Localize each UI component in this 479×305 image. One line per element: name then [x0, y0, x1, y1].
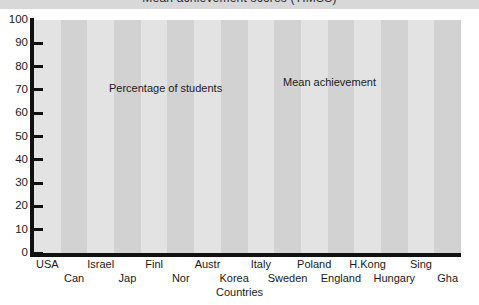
y-axis-tick-label: 50	[2, 131, 28, 142]
background-band	[274, 20, 301, 253]
x-axis-tick-label: Finl	[145, 258, 163, 270]
background-band	[167, 20, 194, 253]
x-axis-tick-label: Can	[64, 272, 84, 284]
x-axis-tick-label: Nor	[172, 272, 190, 284]
x-axis-tick-label: Sweden	[268, 272, 308, 284]
background-band	[114, 20, 141, 253]
y-axis-tick	[34, 182, 43, 185]
background-band	[354, 20, 381, 253]
y-axis-tick-label: 60	[2, 107, 28, 118]
x-axis-tick-label: Gha	[437, 272, 458, 284]
x-axis-tick-label: Sing	[410, 258, 432, 270]
series-label-percentage: Percentage of students	[109, 82, 222, 94]
y-axis-tick-label: 40	[2, 154, 28, 165]
background-band	[434, 20, 461, 253]
plot-area: Percentage of students Mean achievement	[34, 20, 461, 253]
y-axis-tick	[34, 88, 43, 91]
x-axis-tick-label: England	[321, 272, 361, 284]
background-band	[87, 20, 114, 253]
page-title: Mean achievement scores (TIMSS)	[0, 0, 479, 5]
chart-title-strip: Mean achievement scores (TIMSS)	[0, 0, 479, 9]
series-label-achievement: Mean achievement	[283, 76, 376, 88]
chart-figure: Mean achievement scores (TIMSS) 10090807…	[0, 0, 479, 305]
background-band	[221, 20, 248, 253]
y-axis-tick	[34, 42, 43, 45]
background-band	[61, 20, 88, 253]
x-axis-tick-label: Italy	[251, 258, 271, 270]
x-axis-tick-label: Jap	[119, 272, 137, 284]
y-axis-tick-label: 30	[2, 177, 28, 188]
background-band	[408, 20, 435, 253]
x-axis-tick-label: USA	[36, 258, 59, 270]
y-axis-tick-label: 10	[2, 224, 28, 235]
y-axis-tick	[34, 205, 43, 208]
background-band	[248, 20, 275, 253]
background-band	[381, 20, 408, 253]
x-axis-title: Countries	[0, 286, 479, 298]
y-axis-tick	[34, 252, 43, 255]
x-axis-tick-label: Poland	[297, 258, 331, 270]
x-axis-tick-label: H.Kong	[349, 258, 386, 270]
x-axis-tick-label: Korea	[219, 272, 248, 284]
x-axis-tick-label: Austr	[195, 258, 221, 270]
y-axis-tick-label: 80	[2, 61, 28, 72]
y-axis-tick-label: 20	[2, 200, 28, 211]
x-axis-tick-label: Hungary	[373, 272, 415, 284]
y-axis-tick	[34, 158, 43, 161]
x-axis-labels: USACanIsraelJapFinlNorAustrKoreaItalySwe…	[0, 256, 479, 286]
background-band	[301, 20, 328, 253]
background-band	[194, 20, 221, 253]
background-band	[141, 20, 168, 253]
y-axis-tick-label: 100	[2, 14, 28, 25]
y-axis-tick	[34, 135, 43, 138]
y-axis-tick-label: 90	[2, 37, 28, 48]
y-axis-tick-label: 70	[2, 84, 28, 95]
y-axis-tick	[34, 228, 43, 231]
x-axis-tick-label: Israel	[87, 258, 114, 270]
y-axis-tick	[34, 112, 43, 115]
y-axis-tick	[34, 65, 43, 68]
background-band	[328, 20, 355, 253]
